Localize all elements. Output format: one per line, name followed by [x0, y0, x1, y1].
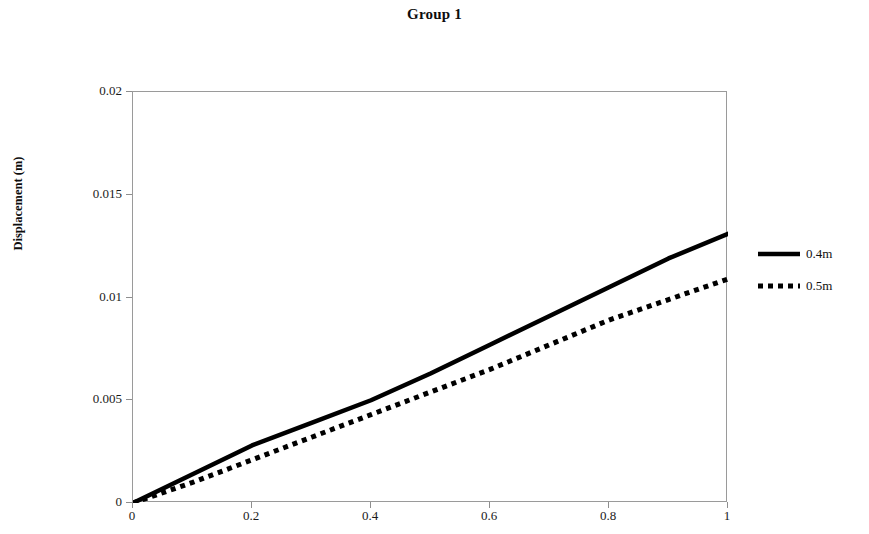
legend-item: 0.4m [757, 238, 865, 270]
x-tick-label: 0.6 [459, 508, 519, 524]
y-axis-tick-labels: 00.0050.010.0150.02 [62, 91, 122, 502]
y-axis-title: Displacement (m) [11, 114, 26, 294]
legend-label: 0.4m [806, 246, 832, 262]
series-line-0.5m [133, 279, 728, 503]
y-tick-label: 0.02 [62, 83, 122, 99]
chart-figure: Group 1 Displacement (m) 00.0050.010.015… [0, 0, 869, 534]
x-tick-label: 0 [102, 508, 162, 524]
x-tick-label: 1 [697, 508, 757, 524]
x-tick-label: 0.4 [340, 508, 400, 524]
x-axis-tick-labels: 00.20.40.60.81 [132, 508, 727, 532]
x-tick-label: 0.8 [578, 508, 638, 524]
y-tick-label: 0.015 [62, 186, 122, 202]
legend-swatch-dotted-line-icon [757, 280, 801, 292]
plot-svg [133, 92, 728, 503]
legend-item: 0.5m [757, 270, 865, 302]
x-tick-label: 0.2 [221, 508, 281, 524]
legend-swatch-solid-line-icon [757, 248, 801, 260]
plot-area [132, 91, 727, 502]
legend-label: 0.5m [806, 278, 832, 294]
y-tick-label: 0.005 [62, 391, 122, 407]
y-tick-label: 0.01 [62, 289, 122, 305]
chart-title: Group 1 [0, 6, 869, 23]
data-series-layer [133, 234, 728, 503]
series-line-0.4m [133, 234, 728, 503]
chart-legend: 0.4m0.5m [757, 238, 865, 302]
